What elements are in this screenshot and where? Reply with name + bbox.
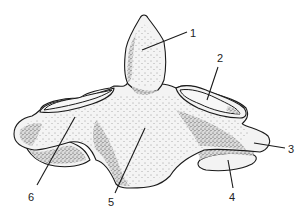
label-3: 3: [288, 143, 294, 155]
label-6: 6: [28, 191, 34, 203]
vertebra-diagram: 1 2 3 4 5 6: [0, 0, 306, 220]
label-2: 2: [217, 52, 223, 64]
vertebra-body: [14, 15, 270, 188]
label-4: 4: [229, 191, 235, 203]
label-1: 1: [190, 27, 196, 39]
label-5: 5: [108, 196, 114, 208]
